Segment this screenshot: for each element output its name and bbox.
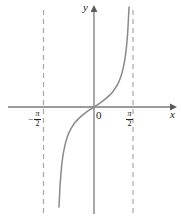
y-axis-label: y	[83, 2, 88, 13]
minus-sign: −	[28, 114, 33, 124]
tick-label-negative-pi-over-2: − π 2	[28, 110, 41, 128]
fraction-numerator: π	[126, 110, 132, 118]
fraction-numerator: π	[35, 110, 41, 118]
fraction-denominator: 2	[127, 120, 133, 128]
tick-label-pi-over-2: π 2	[126, 110, 133, 128]
fraction-pi-over-2: π 2	[126, 110, 133, 128]
tangent-function-graph: y x 0 − π 2 π 2	[0, 0, 181, 222]
fraction-denominator: 2	[35, 120, 41, 128]
y-axis-arrowhead	[91, 5, 98, 12]
origin-label: 0	[96, 110, 102, 121]
x-axis-label: x	[170, 109, 175, 120]
fraction-pi-over-2: π 2	[34, 110, 41, 128]
